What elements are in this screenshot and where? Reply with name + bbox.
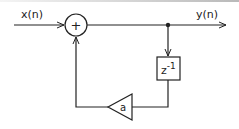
adder-plus-icon: +: [71, 18, 82, 33]
block-diagram: x(n) + y(n) z-1 a: [0, 0, 239, 129]
input-label: x(n): [21, 8, 43, 21]
gain-label: a: [120, 102, 126, 113]
delay-block: z-1: [157, 57, 180, 80]
adder-node: +: [65, 14, 87, 36]
gain-block: a: [108, 94, 132, 120]
gain-to-adder-line: [76, 37, 108, 107]
delay-to-gain-line: [132, 80, 168, 107]
output-label: y(n): [196, 8, 218, 21]
